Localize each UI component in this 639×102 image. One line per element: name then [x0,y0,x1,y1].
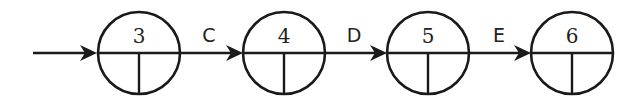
edge-c: C [180,24,243,61]
node-label: 5 [422,24,435,48]
node-3: 3 [98,12,180,94]
diagram-svg: C D E 3 4 [0,0,639,102]
edge-label: C [202,24,215,46]
network-diagram: C D E 3 4 [0,0,639,102]
edge-incoming [33,45,97,61]
edge-e: E [469,24,531,61]
node-label: 3 [133,24,146,48]
node-6: 6 [531,12,613,94]
edge-label: D [347,24,362,46]
node-label: 4 [278,24,291,48]
node-5: 5 [387,12,469,94]
node-4: 4 [243,12,325,94]
edge-d: D [325,24,387,61]
edge-label: E [493,24,505,46]
node-label: 6 [566,24,579,48]
